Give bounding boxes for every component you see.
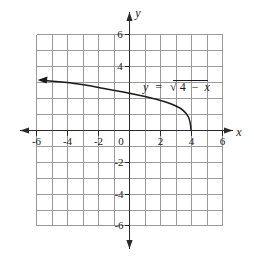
equation-lhs: y (142, 80, 149, 94)
y-tick-label-4: 4 (117, 60, 123, 72)
x-axis-arrow-right (224, 127, 233, 133)
x-axis-label: x (235, 125, 242, 139)
x-tick-label-4: 4 (189, 135, 195, 147)
y-tick-label-6: 6 (117, 28, 123, 40)
coordinate-plane-svg: -6 -4 -2 0 2 4 6 6 4 -2 -4 -6 x y y = √ … (0, 0, 254, 258)
radicand-x: x (203, 80, 210, 94)
x-tick-label-neg4: -4 (63, 135, 73, 147)
origin-label: 0 (118, 135, 124, 147)
equation-equals: = (155, 80, 162, 94)
x-axis-arrow-left (20, 127, 29, 133)
radicand-a: 4 (180, 80, 186, 94)
x-tick-label-neg2: -2 (94, 135, 103, 147)
y-axis-arrow-up (126, 12, 132, 21)
y-tick-label-neg2: -2 (114, 156, 123, 168)
graph-figure: -6 -4 -2 0 2 4 6 6 4 -2 -4 -6 x y y = √ … (0, 0, 254, 258)
x-tick-label-2: 2 (158, 135, 164, 147)
radical-sign: √ (170, 80, 177, 94)
y-axis-arrow-down (126, 240, 132, 249)
y-axis-label: y (134, 6, 141, 20)
x-tick-label-6: 6 (220, 135, 226, 147)
y-tick-label-neg4: -4 (114, 188, 124, 200)
radicand-minus: − (192, 80, 199, 94)
x-tick-label-neg6: -6 (32, 135, 42, 147)
y-tick-label-neg6: -6 (114, 219, 124, 231)
